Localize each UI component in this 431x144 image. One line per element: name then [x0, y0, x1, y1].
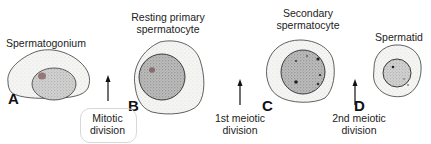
- primary-spermatocyte-nucleus: [139, 54, 185, 100]
- second-meiotic-division-label-line2: division: [323, 124, 395, 136]
- primary-spermatocyte-cell: [134, 41, 203, 114]
- secondary-spermatocyte-label-line1: Secondary: [270, 7, 346, 19]
- mitotic-division-label: Mitotic division: [80, 112, 135, 136]
- spermatid-cell: [374, 45, 422, 97]
- mitotic-division-arrow: [106, 75, 111, 101]
- spermatid-label: Spermatid: [371, 31, 427, 43]
- spermatogonium-nucleus: [32, 68, 76, 100]
- first-meiotic-division-arrow: [238, 79, 243, 105]
- stage-letter-a: A: [8, 91, 19, 106]
- secondary-spermatocyte-nucleus: [281, 50, 325, 94]
- stage-letter-c: C: [262, 98, 273, 113]
- second-meiotic-division-label-line1: 2nd meiotic: [323, 112, 395, 124]
- second-meiotic-division-label: 2nd meiotic division: [323, 112, 395, 136]
- mitotic-division-label-line1: Mitotic: [80, 112, 135, 124]
- secondary-spermatocyte-label-line2: spermatocyte: [270, 19, 346, 31]
- stage-letter-d: D: [354, 98, 365, 113]
- first-meiotic-division-label-line1: 1st meiotic: [205, 112, 275, 124]
- primary-spermatocyte-label-line1: Resting primary: [128, 11, 208, 23]
- primary-spermatocyte-label-line2: spermatocyte: [128, 23, 208, 35]
- secondary-spermatocyte-cell: [266, 40, 334, 102]
- mitotic-division-label-line2: division: [80, 124, 135, 136]
- spermatid-nucleus: [383, 59, 411, 87]
- spermatogonium-cell: [8, 50, 90, 100]
- first-meiotic-division-label-line2: division: [205, 124, 275, 136]
- first-meiotic-division-label: 1st meiotic division: [205, 112, 275, 136]
- primary-spermatocyte-label: Resting primary spermatocyte: [128, 11, 208, 35]
- spermatogonium-label: Spermatogonium: [6, 37, 86, 49]
- secondary-spermatocyte-label: Secondary spermatocyte: [270, 7, 346, 31]
